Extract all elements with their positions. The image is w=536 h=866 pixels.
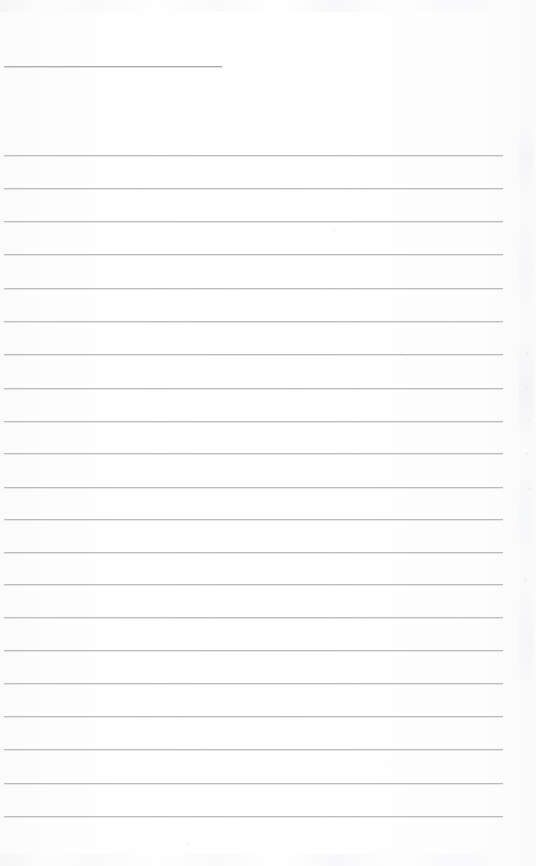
scan-speck	[528, 487, 531, 490]
ruled-line	[4, 716, 503, 717]
scan-speck	[525, 452, 528, 455]
ruled-line	[4, 453, 503, 454]
ruled-line	[4, 552, 503, 553]
ruled-line	[4, 650, 503, 651]
ruled-line	[4, 288, 503, 289]
scan-speck	[524, 578, 527, 581]
paper-surface	[0, 0, 536, 866]
top-edge-scan-noise	[0, 0, 536, 12]
ruled-line	[4, 683, 503, 684]
scan-speck	[527, 419, 530, 422]
ruled-line	[4, 221, 503, 222]
ruled-line	[4, 388, 503, 389]
scan-speck	[186, 843, 188, 845]
scan-speck	[400, 351, 402, 353]
scan-speck	[333, 229, 335, 231]
ruled-line	[4, 584, 503, 585]
ruled-line	[4, 519, 503, 520]
ruled-line	[4, 816, 503, 817]
ruled-line	[4, 749, 503, 750]
scan-speck	[524, 385, 528, 389]
ruled-line	[4, 321, 503, 322]
ruled-line	[4, 155, 503, 156]
bottom-edge-scan-noise	[0, 854, 536, 866]
ruled-line	[4, 783, 503, 784]
ruled-line	[4, 188, 503, 189]
scan-speck	[526, 352, 529, 355]
ruled-line	[4, 617, 503, 618]
ruled-line	[4, 421, 503, 422]
ruled-line	[4, 254, 503, 255]
ruled-line	[4, 354, 503, 355]
ruled-line	[4, 487, 503, 488]
scan-speck	[527, 660, 530, 663]
header-underline-rule	[4, 66, 222, 67]
scanned-page	[0, 0, 536, 866]
right-margin-scan-noise	[519, 120, 533, 740]
